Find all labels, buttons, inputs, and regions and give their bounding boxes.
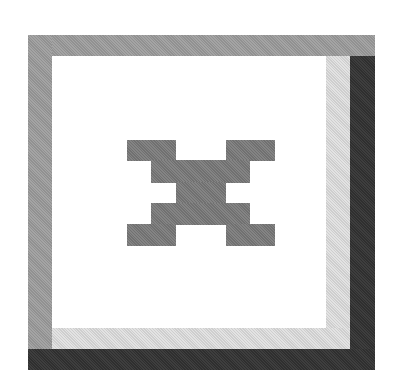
- move-button[interactable]: [28, 35, 375, 370]
- move-arrows-icon: [127, 140, 275, 246]
- bevel-right-shadow: [350, 56, 375, 370]
- bevel-right-inner-shadow: [326, 56, 350, 349]
- glyph-block: [127, 224, 176, 246]
- bevel-bottom-inner-shadow: [52, 328, 350, 349]
- glyph-block: [127, 140, 176, 161]
- bevel-top-highlight: [28, 35, 375, 56]
- glyph-block: [176, 182, 226, 204]
- glyph-block: [151, 203, 250, 225]
- glyph-block: [226, 224, 275, 246]
- bevel-left-highlight: [28, 35, 52, 349]
- bevel-bottom-shadow: [28, 349, 375, 370]
- glyph-block: [151, 160, 250, 183]
- glyph-block: [226, 140, 275, 161]
